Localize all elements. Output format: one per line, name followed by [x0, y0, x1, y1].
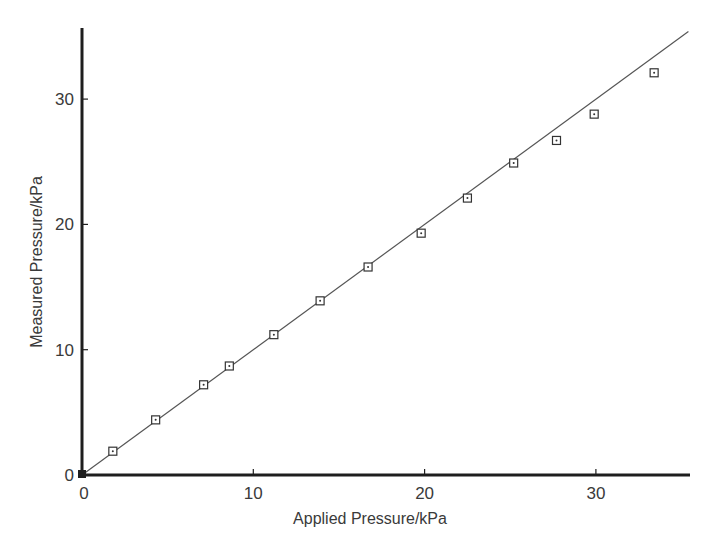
data-point: [463, 194, 471, 202]
x-axis-label: Applied Pressure/kPa: [293, 510, 447, 527]
data-point: [316, 297, 324, 305]
data-point: [553, 136, 561, 144]
ideal-line: [82, 31, 688, 475]
data-point: [152, 416, 160, 424]
chart: 01020300102030 Applied Pressure/kPa Meas…: [0, 0, 712, 546]
data-point: [590, 110, 598, 118]
x-tick-label: 10: [244, 484, 263, 503]
x-tick-label: 20: [415, 484, 434, 503]
data-point: [109, 447, 117, 455]
data-point: [650, 69, 658, 77]
y-tick-label: 0: [65, 466, 74, 485]
data-point: [200, 381, 208, 389]
data-point: [510, 159, 518, 167]
x-tick-label: 0: [79, 484, 88, 503]
y-tick-label: 30: [55, 90, 74, 109]
data-point: [225, 362, 233, 370]
data-point: [364, 263, 372, 271]
y-axis-label: Measured Pressure/kPa: [28, 176, 45, 348]
plot-area: [78, 31, 688, 478]
y-tick-label: 10: [55, 341, 74, 360]
data-point: [417, 229, 425, 237]
y-tick-label: 20: [55, 215, 74, 234]
x-tick-label: 30: [586, 484, 605, 503]
data-point: [270, 331, 278, 339]
